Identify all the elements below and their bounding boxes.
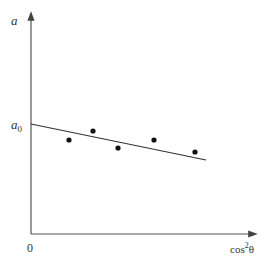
data-points (66, 128, 197, 154)
x-label-theta: θ (249, 243, 254, 255)
fit-line (31, 124, 206, 160)
a0-label: a0 (11, 117, 22, 134)
y-axis-label: a (11, 13, 18, 29)
x-label-cos: cos (230, 243, 245, 255)
a0-sub: 0 (18, 124, 23, 134)
origin-label: 0 (27, 241, 33, 256)
plot-canvas (0, 0, 269, 266)
x-axis-label: cos2θ (230, 241, 254, 255)
